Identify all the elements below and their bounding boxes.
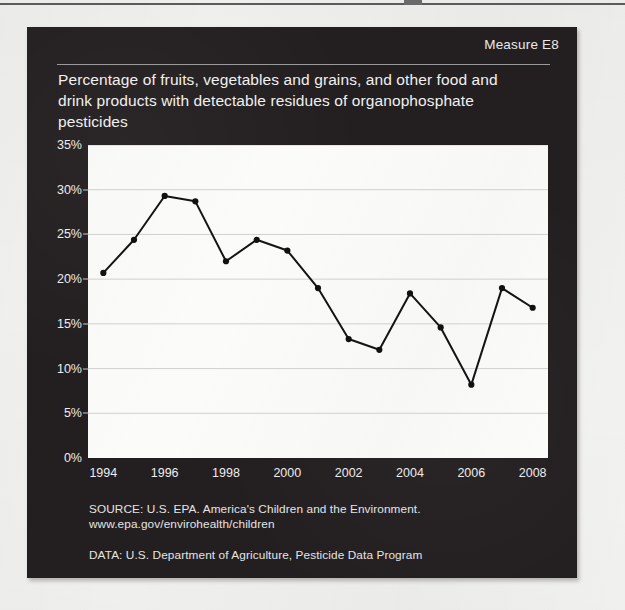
source-note: SOURCE: U.S. EPA. America's Children and… — [89, 502, 529, 532]
x-axis-tick-label: 2004 — [396, 466, 424, 480]
data-point-marker — [346, 336, 352, 342]
x-axis-tick-label: 1996 — [151, 466, 179, 480]
y-axis-tick-mark — [83, 279, 88, 280]
data-point-marker — [131, 237, 137, 243]
x-axis-tick-label: 2002 — [335, 466, 363, 480]
data-point-marker — [223, 258, 229, 264]
y-axis-tick-mark — [83, 323, 88, 324]
data-point-marker — [407, 290, 413, 296]
data-point-marker — [376, 347, 382, 353]
data-point-marker — [284, 247, 290, 253]
page-top-rule — [0, 3, 625, 5]
series-markers — [100, 193, 536, 388]
y-axis-tick-label: 30% — [57, 183, 82, 197]
chart-title: Percentage of fruits, vegetables and gra… — [58, 69, 528, 132]
data-point-marker — [438, 324, 444, 330]
chart-plot-area: 0%5%10%15%20%25%30%35% 19941996199820002… — [88, 145, 548, 458]
x-axis-tick-label: 2000 — [273, 466, 301, 480]
y-axis-tick-label: 15% — [57, 317, 82, 331]
data-note: DATA: U.S. Department of Agriculture, Pe… — [89, 548, 529, 563]
data-point-marker — [254, 237, 260, 243]
x-axis-tick-label: 2006 — [457, 466, 485, 480]
y-axis-tick-mark — [83, 234, 88, 235]
y-axis-tick-label: 35% — [57, 138, 82, 152]
data-point-marker — [192, 198, 198, 204]
y-axis-tick-label: 25% — [57, 227, 82, 241]
data-point-marker — [315, 285, 321, 291]
y-axis-tick-label: 0% — [64, 451, 82, 465]
data-point-marker — [100, 270, 106, 276]
y-axis-tick-label: 5% — [64, 406, 82, 420]
line-chart-svg — [88, 145, 548, 458]
data-point-marker — [530, 305, 536, 311]
data-point-marker — [162, 193, 168, 199]
y-axis-tick-label: 10% — [57, 362, 82, 376]
scanned-page-background: Measure E8 Percentage of fruits, vegetab… — [0, 0, 625, 610]
data-point-marker — [468, 382, 474, 388]
y-axis-tick-mark — [83, 189, 88, 190]
header-divider — [57, 64, 550, 65]
y-axis-tick-label: 20% — [57, 272, 82, 286]
x-axis-tick-label: 2008 — [519, 466, 547, 480]
page-top-rule-mark — [404, 0, 422, 5]
data-point-marker — [499, 285, 505, 291]
measure-label: Measure E8 — [484, 37, 559, 52]
y-axis-tick-mark — [83, 413, 88, 414]
y-axis-tick-mark — [83, 368, 88, 369]
x-axis-tick-label: 1994 — [89, 466, 117, 480]
gridlines — [88, 145, 548, 413]
figure-panel: Measure E8 Percentage of fruits, vegetab… — [27, 27, 577, 578]
x-axis-tick-label: 1998 — [212, 466, 240, 480]
